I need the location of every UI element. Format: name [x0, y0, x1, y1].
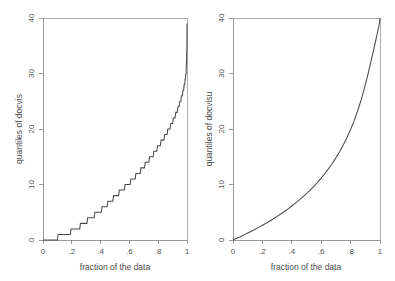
figure-svg: 0 10 20 30 40 0 .2 .4 .6 .8 1 [0, 0, 395, 281]
right-x-ticklabel-06: .6 [318, 247, 325, 256]
left-x-axis-title: fraction of the data [80, 262, 151, 272]
left-x-ticklabel-0: 0 [41, 247, 46, 256]
left-y-ticklabel-0: 0 [27, 237, 36, 242]
left-x-ticklabel-02: .2 [68, 247, 75, 256]
left-y-axis-title: quantiles of docvis [14, 94, 24, 164]
right-y-ticklabel-40: 40 [217, 13, 226, 22]
left-y-ticklabel-40: 40 [27, 13, 36, 22]
left-x-ticklabel-1: 1 [185, 247, 190, 256]
right-x-ticklabel-1: 1 [378, 247, 383, 256]
right-x-axis-title: fraction of the data [271, 262, 342, 272]
right-y-ticklabel-20: 20 [217, 124, 226, 133]
left-x-ticklabel-08: .8 [155, 247, 162, 256]
left-x-ticklabel-06: .6 [126, 247, 133, 256]
figure-background [0, 0, 395, 281]
right-x-ticklabel-04: .4 [288, 247, 295, 256]
left-y-ticklabel-30: 30 [27, 69, 36, 78]
left-y-ticklabel-10: 10 [27, 180, 36, 189]
left-y-ticklabel-20: 20 [27, 124, 36, 133]
figure-container: 0 10 20 30 40 0 .2 .4 .6 .8 1 [0, 0, 395, 281]
right-x-ticklabel-0: 0 [231, 247, 236, 256]
right-y-ticklabel-0: 0 [217, 237, 226, 242]
right-x-ticklabel-08: .8 [347, 247, 354, 256]
right-y-ticklabel-30: 30 [217, 69, 226, 78]
right-y-axis-title: quantiles of docvisu [204, 91, 214, 166]
left-x-ticklabel-04: .4 [97, 247, 104, 256]
right-y-ticklabel-10: 10 [217, 180, 226, 189]
right-x-ticklabel-02: .2 [259, 247, 266, 256]
